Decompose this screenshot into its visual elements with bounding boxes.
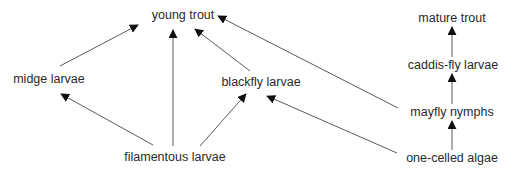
node-one-celled-algae: one-celled algae bbox=[406, 152, 498, 165]
edge-mayfly-to-young-trout bbox=[218, 16, 398, 108]
food-web-diagram: young trout mature trout caddis-fly larv… bbox=[0, 0, 510, 174]
edge-filamentous-to-blackfly bbox=[200, 94, 246, 146]
node-filamentous-larvae: filamentous larvae bbox=[124, 151, 225, 164]
node-blackfly-larvae: blackfly larvae bbox=[221, 76, 300, 89]
node-caddis-fly-larvae: caddis-fly larvae bbox=[408, 59, 498, 72]
edge-midge-to-young-trout bbox=[60, 25, 138, 66]
edge-algae-to-blackfly bbox=[267, 96, 397, 153]
node-mayfly-nymphs: mayfly nymphs bbox=[410, 106, 493, 119]
node-midge-larvae: midge larvae bbox=[13, 73, 85, 86]
node-young-trout: young trout bbox=[152, 9, 215, 22]
node-mature-trout: mature trout bbox=[418, 12, 485, 25]
edge-filamentous-to-midge bbox=[61, 94, 153, 145]
edge-blackfly-to-young-trout bbox=[195, 29, 250, 71]
